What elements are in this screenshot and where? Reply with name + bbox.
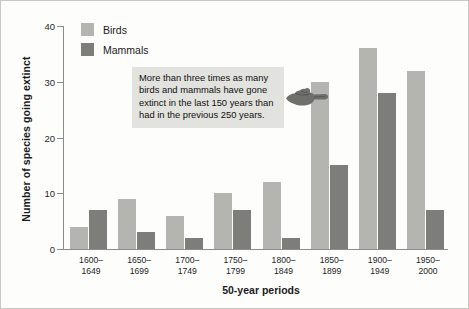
x-axis-category-label: 1850–1899	[308, 255, 356, 277]
annotation-callout: More than three times as many birds and …	[132, 67, 284, 128]
x-axis-category-label: 1700–1749	[163, 255, 211, 277]
legend-swatch-birds-icon	[81, 23, 94, 36]
bar-mammals	[282, 238, 300, 249]
bar-mammals	[185, 238, 203, 249]
x-axis-line	[63, 249, 448, 250]
y-axis-tick	[57, 193, 63, 194]
y-axis-tick-label: 30	[29, 76, 55, 87]
bar-birds	[263, 182, 281, 249]
pointing-hand-icon	[284, 85, 330, 111]
bar-birds	[166, 216, 184, 249]
legend-label-mammals: Mammals	[103, 44, 149, 56]
bar-chart-figure: Number of species going extinct 01020304…	[0, 0, 469, 309]
x-axis-category-label: 1900–1949	[356, 255, 404, 277]
bar-birds	[70, 227, 88, 249]
bar-group	[355, 26, 403, 249]
bar-mammals	[89, 210, 107, 249]
x-axis-category-label: 1800–1849	[260, 255, 308, 277]
legend: Birds Mammals	[81, 23, 149, 63]
x-axis-category-label: 1600–1649	[67, 255, 115, 277]
x-axis-category-label: 1750–1799	[211, 255, 259, 277]
bar-mammals	[233, 210, 251, 249]
y-axis-tick-label: 40	[29, 21, 55, 32]
bar-birds	[359, 48, 377, 249]
bar-group	[403, 26, 451, 249]
bar-mammals	[330, 165, 348, 249]
y-axis-tick	[57, 82, 63, 83]
bar-birds	[118, 199, 136, 249]
bar-group	[210, 26, 258, 249]
legend-swatch-mammals-icon	[81, 43, 94, 56]
y-axis-tick-label: 20	[29, 132, 55, 143]
x-axis-category-label: 1950–2000	[404, 255, 452, 277]
x-axis-category-label: 1650–1699	[115, 255, 163, 277]
bar-mammals	[137, 232, 155, 249]
x-axis-title: 50-year periods	[61, 284, 461, 296]
y-axis-tick-label: 0	[29, 244, 55, 255]
legend-item-birds: Birds	[81, 23, 149, 36]
bar-group	[162, 26, 210, 249]
y-axis-tick-label: 10	[29, 188, 55, 199]
y-axis-tick	[57, 138, 63, 139]
bar-mammals	[378, 93, 396, 249]
bar-group	[259, 26, 307, 249]
y-axis-tick	[57, 249, 63, 250]
bar-mammals	[426, 210, 444, 249]
legend-item-mammals: Mammals	[81, 43, 149, 56]
bar-group	[307, 26, 355, 249]
bar-birds	[407, 71, 425, 249]
bar-birds	[214, 193, 232, 249]
legend-label-birds: Birds	[103, 24, 127, 36]
y-axis-tick-labels: 010203040	[29, 26, 55, 249]
y-axis-line	[63, 26, 64, 249]
y-axis-tick	[57, 26, 63, 27]
